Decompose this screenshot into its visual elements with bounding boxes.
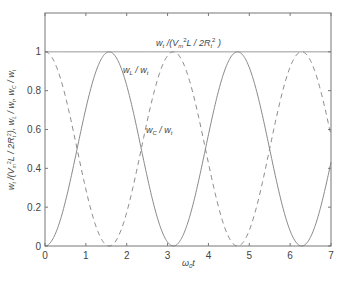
y-axis-label: wt /(Vm2L / 2Rt2), wL / wt, wC / wt — [6, 69, 17, 190]
annotation-capacitor-energy: wC / wt — [146, 125, 173, 136]
series-line-1 — [45, 52, 331, 246]
plot-area — [45, 52, 331, 246]
y-tick-label: 1 — [35, 46, 41, 57]
series-line-2 — [45, 52, 331, 246]
chart-figure: 01234567 00.20.40.60.81 wt /(Vm2L / 2Rt2… — [0, 0, 342, 281]
annotation-total-energy: wt /(Vm2L / 2Rt2 ) — [156, 37, 221, 49]
y-tick-label: 0.4 — [27, 163, 41, 174]
x-axis-ticks: 01234567 — [42, 13, 334, 261]
y-tick-label: 0.6 — [27, 124, 41, 135]
x-tick-label: 5 — [247, 250, 253, 261]
y-axis-ticks: 00.20.40.60.81 — [27, 46, 331, 251]
y-tick-label: 0.8 — [27, 85, 41, 96]
x-axis-label: ω0t — [182, 258, 195, 269]
x-tick-label: 2 — [124, 250, 130, 261]
x-tick-label: 6 — [287, 250, 293, 261]
y-tick-label: 0.2 — [27, 202, 41, 213]
x-tick-label: 0 — [42, 250, 48, 261]
x-tick-label: 4 — [206, 250, 212, 261]
x-tick-label: 1 — [83, 250, 89, 261]
x-tick-label: 7 — [328, 250, 334, 261]
y-tick-label: 0 — [35, 241, 41, 252]
annotation-inductor-energy: wL / wt — [123, 65, 149, 76]
x-tick-label: 3 — [165, 250, 171, 261]
